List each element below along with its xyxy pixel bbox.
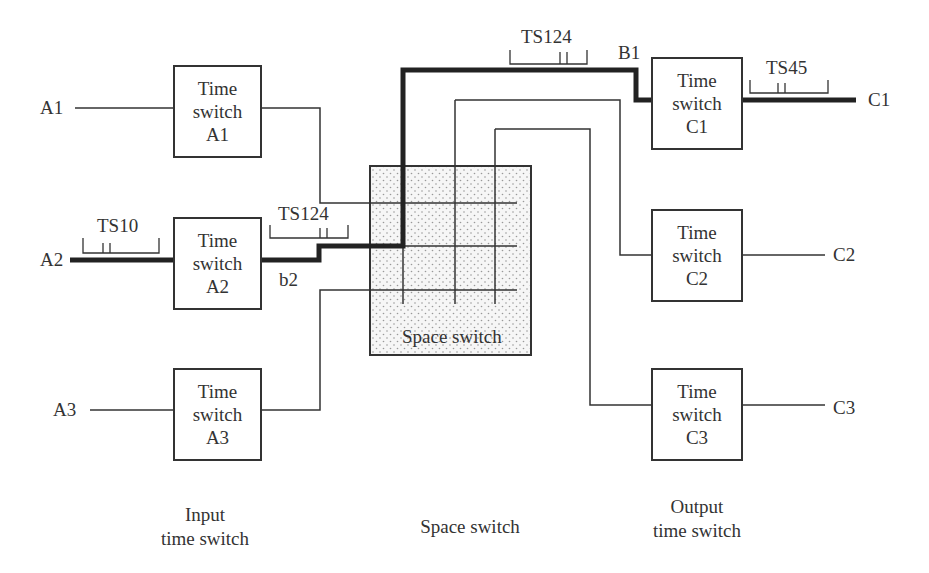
time-switch-a2: Time switch A2 (173, 217, 262, 310)
link-label-b2: b2 (279, 270, 298, 289)
ts124-b1-label: TS124 (521, 27, 572, 46)
time-switch-a3: Time switch A3 (173, 368, 262, 461)
space-switch-label: Space switch (402, 326, 502, 348)
output-label-c2: C2 (833, 245, 855, 264)
link-label-b1: B1 (618, 43, 640, 62)
caption-output: Output time switch (632, 495, 762, 543)
output-label-c1: C1 (868, 90, 890, 109)
input-label-a2: A2 (40, 250, 63, 269)
input-label-a1: A1 (40, 98, 63, 117)
output-label-c3: C3 (833, 398, 855, 417)
ts124-b2-label: TS124 (278, 204, 329, 223)
ts124-b1-bracket (510, 50, 587, 64)
time-switch-c2: Time switch C2 (651, 209, 743, 302)
time-switch-a1: Time switch A1 (173, 65, 262, 158)
time-switch-c1: Time switch C1 (651, 57, 743, 150)
input-label-a3: A3 (53, 400, 76, 419)
caption-space: Space switch (400, 515, 540, 539)
caption-input: Input time switch (150, 503, 260, 551)
ts45-bracket (750, 80, 828, 93)
ts124-b2-bracket (270, 225, 348, 238)
ts10-bracket (83, 238, 159, 253)
diagram-lines (0, 0, 929, 573)
ts45-label: TS45 (766, 58, 807, 77)
time-switch-c3: Time switch C3 (651, 368, 743, 461)
ts10-label: TS10 (97, 216, 138, 235)
